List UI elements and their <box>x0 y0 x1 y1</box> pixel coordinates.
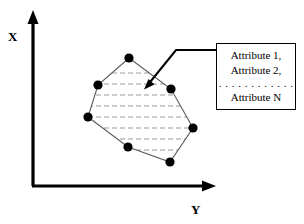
y-axis-label: Y <box>191 203 200 216</box>
y-axis-arrowhead-icon <box>202 181 216 192</box>
data-point <box>123 142 132 151</box>
data-point <box>83 112 92 121</box>
data-point <box>93 80 102 89</box>
y-axis-group <box>32 181 216 192</box>
attribute-line-2: Attribute 2, <box>231 63 282 78</box>
x-axis-arrowhead-icon <box>28 10 39 24</box>
diagram-canvas: X Y Attribute 1, Attribute 2, . . . . . … <box>0 0 304 224</box>
attribute-ellipsis: . . . . . . . . . . . . <box>219 78 294 90</box>
x-axis-group <box>28 10 39 186</box>
cluster-hull-outline <box>88 58 193 162</box>
x-axis-label: X <box>8 30 17 43</box>
diagram-svg <box>0 0 304 224</box>
data-point <box>166 84 175 93</box>
data-point <box>165 157 174 166</box>
attribute-line-1: Attribute 1, <box>231 48 282 63</box>
data-point <box>188 123 197 132</box>
data-point <box>124 53 133 62</box>
attribute-line-n: Attribute N <box>231 90 281 105</box>
attribute-list-box: Attribute 1, Attribute 2, . . . . . . . … <box>216 43 296 110</box>
